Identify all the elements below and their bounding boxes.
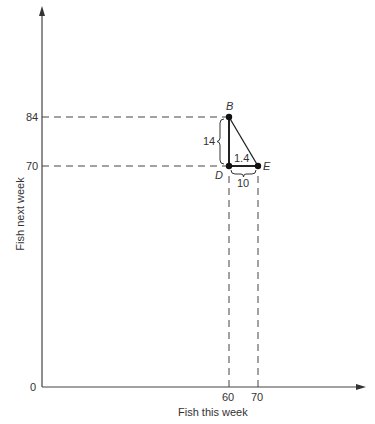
x-axis-arrow-icon xyxy=(356,384,366,390)
guide-lines xyxy=(42,117,258,387)
y-axis-label: Fish next week xyxy=(14,164,26,264)
vertical-brace-icon xyxy=(217,119,224,164)
point-label-e: E xyxy=(263,161,270,172)
slope-label: 1.4 xyxy=(234,153,249,164)
horizontal-gap-label: 10 xyxy=(237,178,249,189)
point-b xyxy=(226,114,232,120)
origin-label: 0 xyxy=(30,382,36,393)
y-axis-arrow-icon xyxy=(39,6,45,16)
y-tick-84: 84 xyxy=(26,112,38,123)
point-label-b: B xyxy=(226,101,233,112)
horizontal-brace-icon xyxy=(231,170,256,177)
y-tick-70: 70 xyxy=(26,161,38,172)
point-label-d: D xyxy=(215,170,223,181)
x-tick-70: 70 xyxy=(251,392,263,403)
x-axis-label: Fish this week xyxy=(178,407,248,418)
x-tick-60: 60 xyxy=(222,392,234,403)
vertical-gap-label: 14 xyxy=(203,136,215,147)
diagram-canvas xyxy=(0,0,375,424)
point-d xyxy=(226,163,232,169)
point-e xyxy=(255,163,261,169)
